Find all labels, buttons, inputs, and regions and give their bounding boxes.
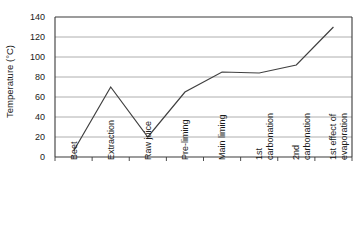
x-axis-tick-label-line: carbonation <box>302 113 313 160</box>
chart-figure: Temperature (°C) 020406080100120140 Beet… <box>0 0 364 238</box>
x-axis-tick-label: Extraction <box>106 160 146 178</box>
y-axis-tick-labels: 020406080100120140 <box>18 12 48 162</box>
x-axis-tick-label-line: 1st effect of <box>328 113 339 160</box>
y-axis-tick-label: 20 <box>35 133 45 142</box>
y-axis-tick-label: 0 <box>40 153 45 162</box>
x-axis-tick-label-line: 2nd <box>291 113 302 160</box>
x-axis-tick-label-line: evaporation <box>339 113 350 160</box>
y-axis-tick-label: 140 <box>30 13 45 22</box>
x-axis-tick-label: Pre-liming <box>180 160 221 178</box>
x-axis-tick-label: Raw juice <box>143 160 182 178</box>
y-axis-tick-label: 80 <box>35 73 45 82</box>
x-axis-tick-label-line: 1st <box>254 113 265 160</box>
y-axis-tick-label: 60 <box>35 93 45 102</box>
y-axis-tick-label: 100 <box>30 53 45 62</box>
y-axis-title-text: Temperature (°C) <box>4 45 15 118</box>
x-axis-tick-label: 1st effect ofevaporation <box>328 160 364 178</box>
y-axis-title: Temperature (°C) <box>0 0 18 162</box>
y-axis-tick-label: 40 <box>35 113 45 122</box>
x-axis-tick-labels: BeetExtractionRaw juicePre-limingMain li… <box>55 160 352 238</box>
x-axis-tick-label: Beet <box>69 160 88 178</box>
x-axis-tick-label-line: carbonation <box>265 113 276 160</box>
y-axis-tick-label: 120 <box>30 33 45 42</box>
